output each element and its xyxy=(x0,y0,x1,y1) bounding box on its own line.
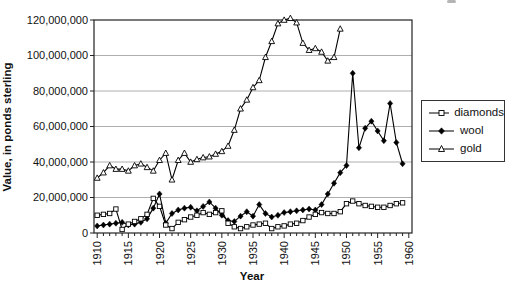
y-axis-title: Value, in ponds sterling xyxy=(1,62,13,191)
y-tick-label: 60,000,000 xyxy=(33,120,88,132)
x-tick-label: 1935 xyxy=(247,241,259,265)
x-axis-title: Year xyxy=(240,270,265,282)
series-gold xyxy=(94,15,343,182)
legend-item-diamonds: diamonds xyxy=(428,107,504,119)
legend-label-gold: gold xyxy=(460,143,482,155)
y-tick-label: 120,000,000 xyxy=(27,14,88,26)
x-axis-ticks: 1910191519201925193019351940194519501955… xyxy=(91,233,415,265)
x-tick-label: 1930 xyxy=(216,241,228,265)
y-axis-ticks: 020,000,00040,000,00060,000,00080,000,00… xyxy=(27,14,94,239)
y-tick-label: 100,000,000 xyxy=(27,49,88,61)
y-tick-label: 0 xyxy=(82,227,88,239)
legend-label-diamonds: diamonds xyxy=(454,107,504,119)
gold-marker-icon xyxy=(428,144,455,154)
x-tick-label: 1940 xyxy=(278,241,290,265)
legend-item-gold: gold xyxy=(428,143,504,155)
x-tick-label: 1960 xyxy=(403,241,415,265)
legend-item-wool: wool xyxy=(428,125,504,137)
legend: diamonds wool gold xyxy=(421,100,505,162)
y-tick-label: 40,000,000 xyxy=(33,156,88,168)
x-tick-label: 1920 xyxy=(154,241,166,265)
x-tick-label: 1945 xyxy=(309,241,321,265)
x-tick-label: 1950 xyxy=(340,241,352,265)
scan-artifact-mark xyxy=(447,0,456,3)
y-tick-label: 20,000,000 xyxy=(33,191,88,203)
wool-marker-icon xyxy=(428,126,455,136)
chart: 020,000,00040,000,00060,000,00080,000,00… xyxy=(0,0,513,294)
diamonds-marker-icon xyxy=(428,108,449,118)
x-tick-label: 1915 xyxy=(122,241,134,265)
y-tick-label: 80,000,000 xyxy=(33,85,88,97)
x-tick-label: 1955 xyxy=(372,241,384,265)
x-tick-label: 1910 xyxy=(91,241,103,265)
x-tick-label: 1925 xyxy=(185,241,197,265)
legend-label-wool: wool xyxy=(460,125,484,137)
